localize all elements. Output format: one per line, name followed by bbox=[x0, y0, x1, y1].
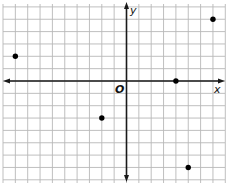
point bbox=[173, 78, 178, 83]
point bbox=[210, 17, 215, 22]
x-axis-label: x bbox=[213, 83, 221, 96]
x-axis-arrow-left-icon bbox=[3, 79, 10, 84]
y-axis-arrow-down-icon bbox=[124, 175, 129, 182]
point bbox=[13, 54, 18, 59]
point bbox=[99, 115, 104, 120]
coordinate-plane: y x O bbox=[0, 0, 228, 187]
origin-label: O bbox=[115, 83, 124, 96]
y-axis-arrow-up-icon bbox=[124, 2, 129, 9]
y-axis-label: y bbox=[129, 4, 137, 17]
point bbox=[186, 165, 191, 170]
